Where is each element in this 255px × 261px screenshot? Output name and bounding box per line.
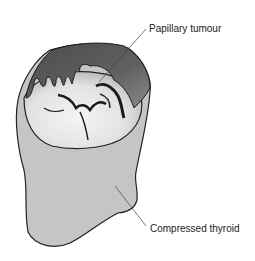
compressed-thyroid-label: Compressed thyroid [150,223,239,234]
papillary-tumour-label: Papillary tumour [149,23,221,34]
thyroid-diagram [0,0,255,261]
